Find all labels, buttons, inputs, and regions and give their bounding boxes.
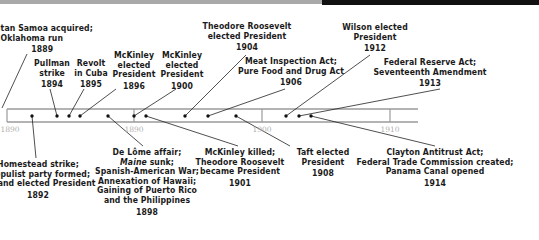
event-1892: Homestead strike; ...opulist party forme… bbox=[0, 160, 96, 200]
event-year: 1914 bbox=[357, 179, 514, 189]
event-1895: Revolt in Cuba 1895 bbox=[74, 59, 107, 90]
event-1908: Taft elected President 1908 bbox=[297, 148, 350, 179]
event-text: ...eland elected President bbox=[0, 179, 96, 189]
event-1913: Federal Reserve Act; Seventeenth Amendme… bbox=[373, 58, 486, 89]
ship-name: Maine bbox=[120, 157, 147, 167]
event-year: 1898 bbox=[95, 208, 199, 218]
event-text: in Cuba bbox=[74, 69, 107, 79]
event-year: 1904 bbox=[203, 43, 292, 53]
event-text: ...Oklahoma run bbox=[0, 34, 93, 44]
event-1889: ...tan Samoa acquired; ...Oklahoma run 1… bbox=[0, 24, 93, 55]
event-text: and the Philippines bbox=[95, 196, 199, 206]
event-year: 1906 bbox=[238, 78, 344, 88]
event-dots bbox=[30, 114, 312, 117]
event-1912: Wilson elected President 1912 bbox=[342, 23, 408, 54]
event-text: President bbox=[161, 70, 204, 80]
tick-label: 1910 bbox=[380, 125, 399, 134]
event-text: President bbox=[113, 70, 156, 80]
event-year: 1908 bbox=[297, 169, 350, 179]
event-year: 1901 bbox=[196, 179, 285, 189]
event-text: Seventeenth Amendment bbox=[373, 68, 486, 78]
event-year: 1895 bbox=[74, 80, 107, 90]
event-text: strike bbox=[34, 69, 70, 79]
event-year: 1892 bbox=[0, 191, 96, 201]
event-1904: Theodore Roosevelt elected President 190… bbox=[203, 22, 292, 53]
event-1894: Pullman strike 1894 bbox=[34, 59, 70, 90]
event-1900: McKinley elected President 1900 bbox=[161, 51, 204, 91]
event-text: Pure Food and Drug Act bbox=[238, 67, 344, 77]
tick-label: 1900 bbox=[252, 125, 271, 134]
tick-label: 1890 bbox=[0, 125, 19, 134]
event-1898: De Lôme affair; Maine sunk; Spanish-Amer… bbox=[95, 148, 199, 217]
tick-label: 1890 bbox=[124, 125, 143, 134]
event-year: 1896 bbox=[113, 82, 156, 92]
event-text: President bbox=[342, 33, 408, 43]
event-text: President bbox=[297, 158, 350, 168]
event-1901: McKinley killed; Theodore Roosevelt beca… bbox=[196, 148, 285, 188]
event-1906: Meat Inspection Act; Pure Food and Drug … bbox=[238, 57, 344, 88]
event-year: 1900 bbox=[161, 82, 204, 92]
event-1914: Clayton Antitrust Act; Federal Trade Com… bbox=[357, 148, 514, 188]
event-text: elected President bbox=[203, 32, 292, 42]
event-year: 1889 bbox=[0, 45, 93, 55]
event-1896: McKinley elected President 1896 bbox=[113, 51, 156, 91]
event-text: became President bbox=[196, 167, 285, 177]
event-text: Panama Canal opened bbox=[357, 167, 514, 177]
event-year: 1913 bbox=[373, 79, 486, 89]
event-year: 1894 bbox=[34, 80, 70, 90]
event-year: 1912 bbox=[342, 44, 408, 54]
event-text: sunk; bbox=[147, 157, 174, 167]
